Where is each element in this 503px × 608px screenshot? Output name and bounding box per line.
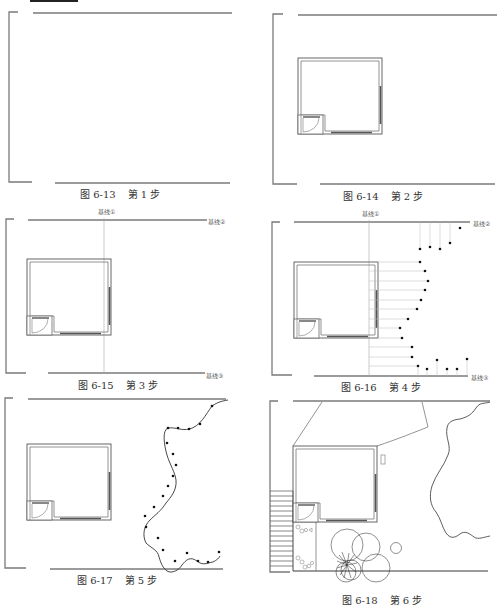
- caption-number: 图 6-13: [80, 189, 116, 200]
- fig-6-16-baseline3-label: 基线③: [471, 373, 488, 382]
- caption-step: 第 1 步: [128, 189, 161, 200]
- caption-step: 第 3 步: [126, 380, 159, 391]
- figure-6-13-drawing: [9, 12, 232, 183]
- figure-6-18-drawing: [270, 401, 490, 582]
- drawing-canvas: [0, 0, 503, 608]
- caption-number: 图 6-17: [77, 575, 113, 586]
- caption-step: 第 2 步: [391, 191, 424, 202]
- fig-6-15-baseline3-label: 基线③: [206, 371, 223, 380]
- fig-6-16-baseline1-label: 基线①: [362, 209, 379, 218]
- figure-6-15-drawing: [6, 218, 207, 374]
- fig-6-16-baseline2-label: 基线②: [473, 219, 490, 228]
- caption-fig-6-14: 图 6-14第 2 步: [343, 188, 423, 203]
- caption-number: 图 6-15: [78, 380, 114, 391]
- caption-fig-6-18: 图 6-18第 6 步: [342, 592, 422, 607]
- caption-number: 图 6-14: [343, 191, 379, 202]
- caption-fig-6-16: 图 6-16第 4 步: [341, 379, 421, 394]
- caption-fig-6-17: 图 6-17第 5 步: [77, 572, 157, 587]
- fig-6-15-baseline2-label: 基线②: [208, 217, 225, 226]
- figure-6-14-drawing: [273, 14, 497, 184]
- figure-6-17-drawing: [5, 398, 228, 572]
- caption-number: 图 6-16: [341, 382, 377, 393]
- caption-fig-6-13: 图 6-13第 1 步: [80, 186, 160, 201]
- caption-step: 第 5 步: [125, 575, 158, 586]
- caption-fig-6-15: 图 6-15第 3 步: [78, 377, 158, 392]
- caption-number: 图 6-18: [342, 595, 378, 606]
- figure-6-16-drawing: [272, 220, 470, 377]
- caption-step: 第 6 步: [390, 595, 423, 606]
- fig-6-15-baseline1-label: 基线①: [98, 207, 115, 216]
- caption-step: 第 4 步: [389, 382, 422, 393]
